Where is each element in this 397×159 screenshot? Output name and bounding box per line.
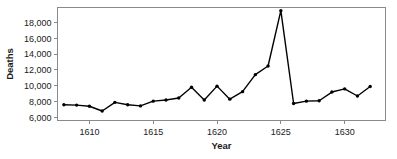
data-point xyxy=(62,103,65,106)
data-point xyxy=(228,97,231,100)
data-point xyxy=(305,99,308,102)
data-point xyxy=(190,86,193,89)
y-tick-label: 18,000 xyxy=(24,18,52,28)
data-point xyxy=(215,84,218,87)
y-tick-label: 14,000 xyxy=(24,49,52,59)
data-point xyxy=(164,98,167,101)
x-tick-label: 1625 xyxy=(271,127,291,137)
data-point xyxy=(317,99,320,102)
data-point xyxy=(139,104,142,107)
data-point xyxy=(254,73,257,76)
data-point xyxy=(279,9,282,12)
data-point xyxy=(266,64,269,67)
y-tick-label: 6,000 xyxy=(29,113,52,123)
data-point xyxy=(75,103,78,106)
x-axis-ticks: 16101615162016251630 xyxy=(79,121,354,137)
plot-border xyxy=(58,8,386,121)
data-point xyxy=(88,105,91,108)
data-point xyxy=(368,85,371,88)
deaths-by-year-chart: 6,0008,00010,00012,00014,00016,00018,000… xyxy=(0,0,397,159)
x-tick-label: 1630 xyxy=(335,127,355,137)
x-axis-title: Year xyxy=(211,140,231,151)
data-series-deaths xyxy=(62,9,372,113)
x-tick-label: 1610 xyxy=(79,127,99,137)
y-axis-ticks: 6,0008,00010,00012,00014,00016,00018,000 xyxy=(24,18,58,123)
line-chart-container: 6,0008,00010,00012,00014,00016,00018,000… xyxy=(0,0,397,159)
y-tick-label: 10,000 xyxy=(24,81,52,91)
data-point xyxy=(113,101,116,104)
data-point xyxy=(100,109,103,112)
data-point xyxy=(343,87,346,90)
data-point xyxy=(292,102,295,105)
series-polyline xyxy=(64,11,370,111)
data-point xyxy=(152,99,155,102)
data-point xyxy=(177,96,180,99)
x-tick-label: 1615 xyxy=(143,127,163,137)
data-point xyxy=(126,103,129,106)
y-axis-title: Deaths xyxy=(4,48,15,80)
data-point xyxy=(241,90,244,93)
x-tick-label: 1620 xyxy=(207,127,227,137)
y-tick-label: 8,000 xyxy=(29,97,52,107)
data-point xyxy=(330,90,333,93)
plot-frame xyxy=(58,8,386,121)
data-point xyxy=(203,98,206,101)
data-point xyxy=(356,94,359,97)
y-tick-label: 16,000 xyxy=(24,34,52,44)
y-tick-label: 12,000 xyxy=(24,65,52,75)
